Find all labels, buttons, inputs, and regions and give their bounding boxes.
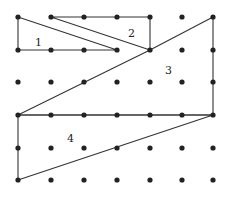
grid-dot xyxy=(114,79,119,84)
grid-dot xyxy=(210,112,215,117)
grid-dot xyxy=(81,145,86,150)
grid-dot xyxy=(15,47,20,52)
grid-dot xyxy=(147,112,152,117)
grid-dot xyxy=(210,177,215,182)
grid-dot xyxy=(210,79,215,84)
grid-dot xyxy=(81,14,86,19)
grid-dot xyxy=(114,14,119,19)
grid-dot xyxy=(48,112,53,117)
grid-dot xyxy=(15,79,20,84)
grid-dot xyxy=(179,177,184,182)
grid-dot xyxy=(114,145,119,150)
grid-dot xyxy=(81,47,86,52)
shape-label-1: 1 xyxy=(35,36,42,49)
shape-label-4: 4 xyxy=(67,132,74,145)
grid-dot xyxy=(81,177,86,182)
grid-dot xyxy=(48,177,53,182)
grid-dot xyxy=(81,112,86,117)
grid-dot xyxy=(210,14,215,19)
grid-dot xyxy=(48,145,53,150)
grid-dot xyxy=(210,47,215,52)
grid-dot xyxy=(48,47,53,52)
grid-dot xyxy=(179,14,184,19)
grid-dot xyxy=(147,145,152,150)
grid-dot xyxy=(179,145,184,150)
grid-dot xyxy=(114,47,119,52)
grid-dot xyxy=(210,145,215,150)
grid-dot xyxy=(15,177,20,182)
grid-dot xyxy=(147,14,152,19)
grid-dots xyxy=(15,14,215,182)
grid-dot xyxy=(147,177,152,182)
grid-dot xyxy=(15,112,20,117)
shape-label-3: 3 xyxy=(165,64,172,77)
grid-dot xyxy=(147,47,152,52)
grid-dot xyxy=(15,145,20,150)
shape-labels: 1 2 3 4 xyxy=(35,27,172,145)
grid-dot xyxy=(179,47,184,52)
grid-dot xyxy=(179,112,184,117)
grid-dot xyxy=(81,79,86,84)
grid-dot xyxy=(114,112,119,117)
shape-3-outline xyxy=(18,17,213,115)
grid-dot xyxy=(48,14,53,19)
grid-dot xyxy=(15,14,20,19)
shapes-layer xyxy=(18,17,213,180)
grid-dot xyxy=(114,177,119,182)
dot-grid-diagram: 1 2 3 4 xyxy=(0,0,235,198)
shape-label-2: 2 xyxy=(128,27,135,40)
grid-dot xyxy=(179,79,184,84)
grid-dot xyxy=(48,79,53,84)
grid-dot xyxy=(147,79,152,84)
